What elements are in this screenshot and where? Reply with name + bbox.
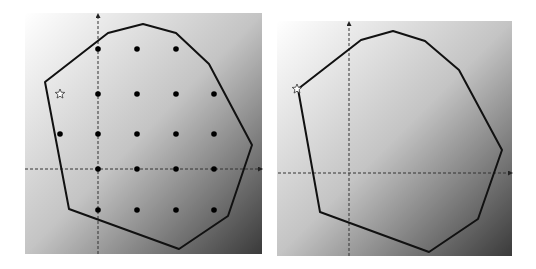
lattice-point xyxy=(95,91,101,97)
lattice-point xyxy=(211,131,217,137)
lattice-point xyxy=(134,91,140,97)
right-panel xyxy=(277,21,512,256)
lattice-point xyxy=(211,207,217,213)
lattice-point xyxy=(95,166,101,172)
lattice-point xyxy=(211,91,217,97)
lattice-point xyxy=(95,46,101,52)
lattice-point xyxy=(173,46,179,52)
lattice-point xyxy=(173,207,179,213)
lattice-point xyxy=(173,166,179,172)
lattice-point xyxy=(134,46,140,52)
lattice-point xyxy=(134,207,140,213)
diagram-canvas xyxy=(0,0,536,269)
lattice-point xyxy=(95,131,101,137)
left-panel xyxy=(25,13,262,254)
lattice-point xyxy=(57,131,63,137)
lattice-point xyxy=(173,91,179,97)
lattice-point xyxy=(134,131,140,137)
lattice-point xyxy=(211,166,217,172)
lattice-point xyxy=(173,131,179,137)
lattice-point xyxy=(134,166,140,172)
lattice-point xyxy=(95,207,101,213)
